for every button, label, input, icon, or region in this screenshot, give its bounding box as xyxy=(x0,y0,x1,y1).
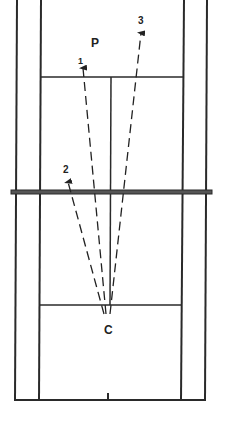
origin-label: C xyxy=(104,323,113,337)
inner-right-sideline xyxy=(181,0,184,400)
player-label: P xyxy=(91,36,99,50)
net xyxy=(11,190,212,194)
outer-left-sideline xyxy=(15,0,17,400)
shot-3-label: 3 xyxy=(138,15,144,26)
inner-left-sideline xyxy=(39,0,41,400)
shot-arrow-2 xyxy=(68,182,104,314)
shot-2-label: 2 xyxy=(63,164,69,175)
shot-1-label: 1 xyxy=(78,56,83,66)
court-diagram: P C 1 2 3 xyxy=(0,0,225,432)
shot-arrow-3 xyxy=(110,33,141,314)
outer-right-sideline xyxy=(205,0,207,400)
